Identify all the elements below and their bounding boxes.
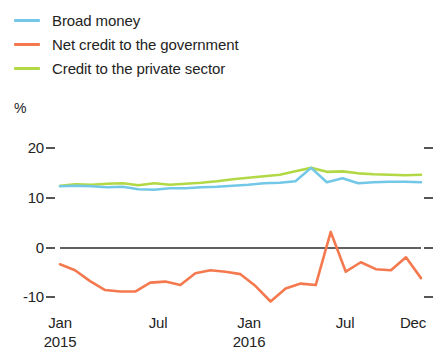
chart-plot-area xyxy=(0,0,437,355)
series-line-net-credit-to-the-government xyxy=(60,232,421,302)
chart-figure: Broad money Net credit to the government… xyxy=(0,0,437,355)
